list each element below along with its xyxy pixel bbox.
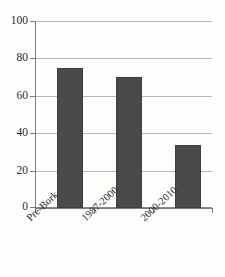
plot-area: 100 80 60 40 20 0 xyxy=(35,21,212,208)
gridline-100 xyxy=(35,21,212,22)
y-axis-spine xyxy=(35,21,36,209)
y-axis-label-100: 100 xyxy=(11,15,28,27)
bar-chart: 100 80 60 40 20 0 Pre-Bork 1987-2000 200… xyxy=(0,0,225,277)
bar-pre-bork xyxy=(57,68,83,208)
y-axis-label-40: 40 xyxy=(17,127,29,139)
bar-1987-2000 xyxy=(116,77,142,208)
gridline-80 xyxy=(35,58,212,59)
bar-2000-2010 xyxy=(175,145,201,208)
x-tick-end xyxy=(212,208,213,213)
x-axis-line xyxy=(35,208,213,209)
y-axis-label-80: 80 xyxy=(17,53,29,65)
y-axis-label-20: 20 xyxy=(17,165,29,177)
y-axis-label-60: 60 xyxy=(17,90,29,102)
